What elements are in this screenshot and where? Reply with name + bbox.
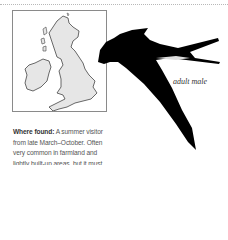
where-found-text: Where found: A summer visitor from late … <box>13 127 113 165</box>
description-line-3: very common in farmland and <box>13 149 97 156</box>
description-line-1: A summer visitor <box>56 128 103 135</box>
description-line-4: lightly built-up areas, but it must <box>13 160 102 166</box>
where-found-label: Where found: <box>13 128 54 135</box>
description-line-2: from late March–October. Often <box>13 139 102 146</box>
bird-caption: adult male <box>173 77 207 86</box>
